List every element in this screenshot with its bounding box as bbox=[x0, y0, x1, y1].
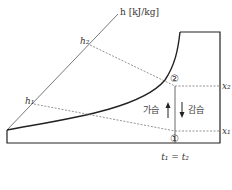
enthalpy-axis-label: h [kJ/kg] bbox=[120, 7, 159, 17]
h2-label: h₂ bbox=[80, 36, 90, 46]
h1-label: h₁ bbox=[25, 96, 34, 106]
state-point-2: ② bbox=[170, 73, 179, 84]
x1-label: x₁ bbox=[222, 126, 231, 136]
humidify-label: 가습 bbox=[143, 105, 159, 115]
state-point-1: ① bbox=[170, 133, 179, 144]
down-arrow-icon bbox=[180, 102, 185, 118]
h2-dashed-line bbox=[90, 45, 175, 86]
temperature-label: t₁ = t₂ bbox=[161, 152, 189, 162]
x2-label: x₂ bbox=[222, 81, 231, 91]
chart-frame bbox=[7, 32, 220, 143]
dehumidify-label: 감습 bbox=[188, 104, 204, 115]
enthalpy-axis-line bbox=[7, 14, 118, 130]
up-arrow-icon bbox=[166, 102, 171, 118]
psychrometric-diagram: h [kJ/kg] h₂ h₁ x₂ x₁ ② ① 가습 감습 t₁ = t₂ bbox=[0, 0, 232, 190]
